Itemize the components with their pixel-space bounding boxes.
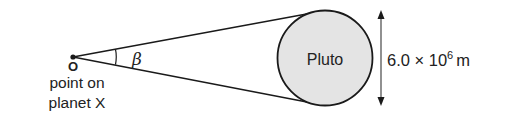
- upper-tangent-line: [73, 13, 312, 57]
- observer-caption-line1: point on: [49, 74, 104, 91]
- angle-arc: [116, 49, 117, 64]
- planet-name-label: Pluto: [307, 51, 344, 68]
- observer-caption-line2: planet X: [49, 94, 107, 111]
- pluto-angle-diagram: O point on planet X β Pluto 6.0 × 106m: [0, 0, 510, 125]
- arrowhead-down-icon: [378, 97, 385, 106]
- dimension-unit: m: [456, 51, 470, 69]
- dimension-exponent: 6: [447, 49, 453, 61]
- angle-beta-label: β: [131, 49, 142, 69]
- dimension-value-label: 6.0 × 106m: [387, 49, 470, 69]
- lower-tangent-line: [73, 57, 312, 103]
- dimension-mantissa: 6.0 × 10: [387, 51, 447, 69]
- observer-label-o: O: [68, 59, 78, 74]
- arrowhead-up-icon: [378, 10, 385, 19]
